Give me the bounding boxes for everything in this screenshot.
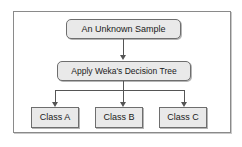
node-class-c-label: Class C bbox=[167, 113, 199, 122]
diagram-frame: An Unknown Sample Apply Weka's Decision … bbox=[13, 11, 231, 133]
node-class-b-label: Class B bbox=[103, 113, 134, 122]
connector-branch-bus bbox=[55, 90, 184, 91]
node-class-c: Class C bbox=[159, 107, 207, 128]
node-class-b: Class B bbox=[95, 107, 143, 128]
node-class-a-label: Class A bbox=[40, 113, 71, 122]
connector-input-to-process bbox=[123, 39, 124, 56]
node-unknown-sample-label: An Unknown Sample bbox=[81, 25, 165, 34]
node-class-a: Class A bbox=[31, 107, 79, 128]
diagram-canvas: An Unknown Sample Apply Weka's Decision … bbox=[0, 0, 242, 147]
arrowhead-input-to-process bbox=[120, 55, 126, 60]
node-apply-decision-tree: Apply Weka's Decision Tree bbox=[57, 61, 191, 81]
node-unknown-sample: An Unknown Sample bbox=[66, 19, 181, 39]
connector-process-stem bbox=[123, 81, 124, 90]
node-apply-decision-tree-label: Apply Weka's Decision Tree bbox=[71, 67, 176, 76]
